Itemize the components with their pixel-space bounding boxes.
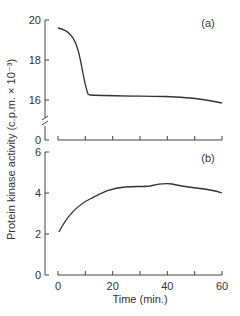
curve-b [59, 184, 222, 232]
x-axis-title: Time (min.) [112, 293, 167, 305]
panel-b: 6 4 2 0 0 20 40 60 Time (min.) (b) [35, 146, 228, 305]
panel-label-a: (a) [201, 17, 214, 29]
y-tick-label: 4 [35, 187, 41, 199]
panel-a: 20 18 16 0 (a) [29, 14, 222, 146]
y-tick-label: 18 [29, 54, 41, 66]
y-axis-title: Protein kinase activity (c.p.m. × 10⁻³) [5, 59, 17, 240]
x-tick-label: 0 [55, 280, 61, 292]
figure: Protein kinase activity (c.p.m. × 10⁻³) … [0, 0, 240, 316]
y-tick-label: 2 [35, 228, 41, 240]
panel-label-b: (b) [201, 152, 214, 164]
y-tick-label: 0 [35, 134, 41, 146]
x-tick-label: 20 [107, 280, 119, 292]
x-tick-label: 40 [161, 280, 173, 292]
y-tick-label: 16 [29, 94, 41, 106]
y-tick-label: 6 [35, 146, 41, 158]
x-tick-label: 60 [216, 280, 228, 292]
y-tick-label: 0 [35, 269, 41, 281]
curve-a [58, 28, 222, 103]
y-tick-label: 20 [29, 14, 41, 26]
